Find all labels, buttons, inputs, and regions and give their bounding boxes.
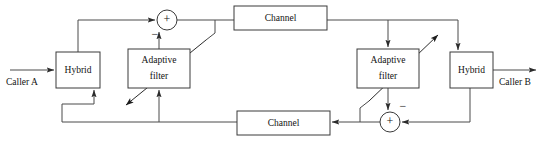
block-channel-bottom-label: Channel	[268, 118, 300, 128]
block-hybrid-right[interactable]: Hybrid	[450, 52, 493, 88]
wire-hybrid-left-to-top-summer	[78, 20, 155, 52]
summer-top-minus-sign: −	[152, 27, 159, 41]
wire-left-bus-to-hybrid-left	[62, 90, 94, 104]
block-adaptive-filter-right-label-line1: Adaptive	[371, 55, 406, 65]
summer-top[interactable]: + −	[152, 10, 177, 41]
block-channel-top-label: Channel	[265, 13, 297, 23]
block-hybrid-right-label: Hybrid	[458, 65, 485, 75]
block-adaptive-filter-left-label-line1: Adaptive	[142, 55, 177, 65]
summer-bottom[interactable]: + −	[380, 99, 407, 132]
block-hybrid-left[interactable]: Hybrid	[56, 52, 100, 88]
wire-bottom-summer-tap	[360, 101, 369, 122]
block-channel-bottom[interactable]: Channel	[237, 111, 330, 135]
block-hybrid-left-label: Hybrid	[65, 65, 92, 75]
terminal-label-caller-b: Caller B	[499, 77, 531, 87]
figure-canvas: Hybrid Adaptive filter Channel Channel A…	[0, 0, 545, 144]
summer-bottom-plus-sign: +	[387, 114, 394, 128]
block-adaptive-filter-left[interactable]: Adaptive filter	[128, 49, 190, 88]
summer-top-plus-sign: +	[164, 12, 171, 26]
block-adaptive-filter-right[interactable]: Adaptive filter	[357, 49, 419, 88]
terminal-label-caller-a: Caller A	[6, 77, 38, 87]
echo-cancellation-block-diagram: Hybrid Adaptive filter Channel Channel A…	[0, 0, 545, 144]
wire-hybrid-right-to-bottom-summer	[402, 88, 470, 122]
block-adaptive-filter-left-label-line2: filter	[150, 71, 169, 81]
block-adaptive-filter-right-label-line2: filter	[379, 71, 398, 81]
block-channel-top[interactable]: Channel	[234, 6, 327, 30]
summer-bottom-minus-sign: −	[400, 99, 407, 113]
wire-top-summer-tap	[206, 20, 215, 40]
